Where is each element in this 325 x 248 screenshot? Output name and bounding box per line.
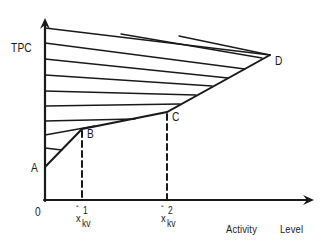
tick-superscript: 1 [83,206,88,216]
tick-label-1: ˆ x 1 kv [74,205,104,229]
tick-superscript: 2 [168,206,173,216]
x-axis-label-level: Level [280,224,303,235]
tick-label-2: ˆ x 2 kv [159,205,189,229]
tick-base: x [161,213,166,224]
tick-subscript: kv [82,219,91,229]
hatch-line [121,34,262,58]
tick-base: x [76,213,81,224]
origin-label: 0 [35,206,41,218]
point-c-label: C [172,111,180,123]
x-axis-label-activity: Activity [226,224,257,235]
tpc-curve [45,55,270,167]
point-d-label: D [275,55,283,67]
tick-subscript: kv [167,219,176,229]
point-a-label: A [31,162,38,174]
y-axis-label: TPC [11,42,32,54]
point-b-label: B [87,128,94,140]
